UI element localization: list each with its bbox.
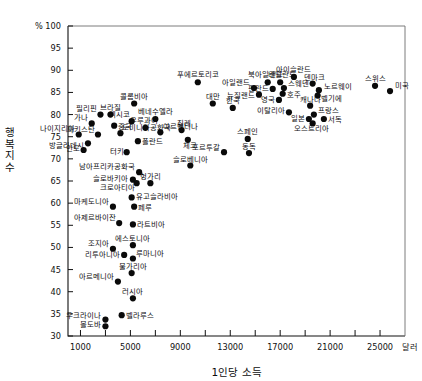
y-tick-label: 35 — [51, 309, 61, 319]
data-point-label: 아제르바이잔 — [74, 213, 116, 222]
data-point-label: 라트비아 — [137, 220, 165, 229]
data-point-label: 베네수엘라 — [138, 107, 173, 116]
data-point-label: 조지아 — [88, 239, 109, 248]
y-tick-label: 55 — [51, 220, 61, 230]
data-point-label: 영국 — [261, 95, 275, 104]
data-point — [116, 220, 122, 226]
y-tick-label: 80 — [51, 110, 61, 120]
data-point-label: 폴란드 — [142, 137, 163, 146]
data-point-label: 캐나다 — [300, 95, 321, 104]
data-point — [95, 131, 101, 137]
data-point — [270, 86, 276, 92]
data-point — [115, 278, 121, 284]
data-point-label: 헝가리 — [140, 172, 161, 181]
data-point-label: 몰도바 — [80, 320, 101, 329]
x-axis-title: 1인당 소득 — [211, 366, 261, 378]
y-tick-label: 70 — [51, 154, 61, 164]
data-point-label: 터키 — [110, 147, 124, 156]
data-point-label: 우크라이나 — [66, 311, 101, 320]
data-point-label: 스위스 — [365, 74, 386, 83]
data-point-label: 가나 — [74, 113, 88, 122]
data-point-label: 호주 — [287, 90, 301, 99]
data-point-label: 프랑스 — [318, 106, 339, 115]
data-point-label: 슬로바키아 — [93, 174, 128, 183]
data-point — [135, 138, 141, 144]
data-point — [195, 79, 201, 85]
data-point — [102, 317, 108, 323]
data-point-label: 오스트리아 — [294, 124, 329, 133]
y-tick-label: 50 — [51, 242, 61, 252]
data-point-label: 스페인 — [237, 127, 258, 136]
data-point — [276, 97, 282, 103]
y-tick-label: 30 — [51, 331, 61, 341]
data-point-label: 핀란드 — [248, 84, 269, 93]
data-point-label: 페루 — [138, 203, 152, 212]
data-point — [85, 140, 91, 146]
y-tick-label: 40 — [51, 287, 61, 297]
data-point — [119, 312, 125, 318]
data-point — [102, 323, 108, 329]
data-point-label: 서독 — [328, 115, 342, 124]
data-point-label: 크로아티아 — [100, 183, 135, 192]
data-point-label: 푸에르토리코 — [177, 70, 219, 79]
plot-canvas: 3035404550556065707580859095% 100 100050… — [0, 0, 422, 381]
data-point — [280, 91, 286, 97]
data-point — [131, 204, 137, 210]
x-tick-label: 13000 — [217, 342, 243, 352]
data-point — [97, 111, 103, 117]
data-point-label: 이탈리아 — [257, 106, 285, 115]
data-point — [311, 111, 317, 117]
x-tick-label: 21000 — [317, 342, 343, 352]
data-point-label: 방글라데시 — [49, 141, 84, 150]
y-tick-labels: 3035404550556065707580859095% 100 — [35, 21, 61, 341]
data-point-label: 에스토니아 — [115, 234, 150, 243]
data-point-label: 슬로베니아 — [173, 155, 208, 164]
data-point-label: 루마니아 — [136, 249, 164, 258]
x-tick-label: 1000 — [70, 342, 91, 352]
y-tick-label: 65 — [51, 176, 61, 186]
y-axis-title-char: 수 — [2, 162, 18, 174]
data-point-label: 동독 — [242, 142, 256, 151]
data-point-label: 콜롬비아 — [120, 92, 148, 101]
data-point-labels: 나이지리아인도방글라데시가나파키스탄필리핀브라질중국도미니카공화국터키멕시코콜롬… — [40, 65, 409, 329]
data-point-label: 리투아니아 — [85, 250, 120, 259]
data-point-label: 파키스탄 — [67, 125, 95, 134]
y-tick-label: 75 — [51, 132, 61, 142]
data-point-label: 대만 — [206, 92, 220, 101]
y-tick-label: 90 — [51, 65, 61, 75]
data-point-label: 칠레 — [177, 119, 191, 128]
data-point-label: 아일랜드 — [222, 78, 250, 87]
y-tick-label: 95 — [51, 43, 61, 53]
data-point-label: 아르메니아 — [79, 272, 114, 281]
x-tick-labels: 10005000900013000170002100025000 — [70, 342, 393, 352]
data-point-label: 멕시코 — [109, 110, 130, 119]
data-point-label: 포르투갈 — [192, 143, 220, 152]
x-tick-label: 5000 — [120, 342, 141, 352]
data-point-label: 불가리아 — [119, 262, 147, 271]
scatter-chart-figure: 3035404550556065707580859095% 100 100050… — [0, 0, 422, 381]
data-point — [210, 100, 216, 106]
y-axis-title-char: 지 — [2, 150, 18, 162]
data-point-label: 덴마크 — [304, 73, 325, 82]
data-point — [129, 194, 135, 200]
data-point — [372, 83, 378, 89]
data-point — [230, 105, 236, 111]
data-point-label: 필리핀 — [76, 104, 97, 113]
data-point — [316, 87, 322, 93]
data-point — [130, 221, 136, 227]
data-point-label: 일본 — [291, 114, 305, 123]
data-point-label: 마케도니아 — [74, 197, 109, 206]
x-tick-label: 9000 — [170, 342, 191, 352]
data-point-label: 유고슬라비아 — [136, 192, 178, 201]
data-point — [245, 136, 251, 142]
y-tick-label: 85 — [51, 87, 61, 97]
data-point-label: 미국 — [395, 81, 409, 90]
data-point — [221, 149, 227, 155]
data-point-label: 벨라루스 — [126, 311, 154, 320]
y-tick-label: 45 — [51, 265, 61, 275]
data-point — [387, 88, 393, 94]
data-point-label: 남아프리카공화국 — [79, 162, 135, 171]
data-point-label: 우루과이 — [130, 116, 158, 125]
data-point-label: 벨기에 — [321, 94, 342, 103]
x-tick-label: 25000 — [367, 342, 393, 352]
